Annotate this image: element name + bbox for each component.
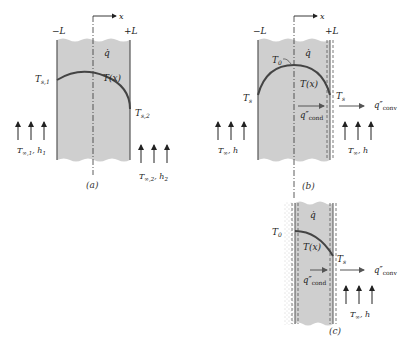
heat-generation-b: q̇ bbox=[305, 48, 311, 58]
slab-c bbox=[295, 202, 333, 326]
fluid-left-a: T∞,1, h1 bbox=[17, 146, 46, 156]
caption-a: (a) bbox=[86, 180, 99, 190]
flow-arrows-left-b bbox=[218, 122, 244, 140]
slab-a bbox=[57, 39, 130, 162]
fluid-right-c: T∞, h bbox=[350, 310, 370, 320]
fluid-left-b: T∞, h bbox=[218, 146, 238, 156]
heat-generation-a: q̇ bbox=[104, 48, 110, 58]
surface-temp-left-a: Ts,1 bbox=[35, 74, 50, 85]
panel-c: q̇ T0 T(x) Ts q″cond q″conv T∞, h (c) bbox=[272, 202, 397, 337]
slab-b bbox=[258, 39, 330, 162]
heat-generation-c: q̇ bbox=[310, 210, 316, 220]
surface-temp-left-b: Ts bbox=[243, 93, 252, 104]
caption-c: (c) bbox=[329, 326, 342, 336]
plane-wall-diagram: x −L +L q̇ T(x) Ts,1 Ts,2 T∞,1, h1 T∞,2,… bbox=[0, 0, 415, 349]
conv-flux-label-c: q″conv bbox=[374, 265, 397, 276]
insulation-c bbox=[284, 202, 295, 325]
flow-arrows-right-c bbox=[346, 286, 372, 304]
x-axis-label-b: x bbox=[320, 12, 325, 21]
fluid-right-a: T∞,2, h2 bbox=[139, 172, 168, 182]
right-bound-b: +L bbox=[325, 26, 339, 36]
fluid-right-b: T∞, h bbox=[348, 146, 368, 156]
left-bound-a: −L bbox=[52, 26, 66, 36]
surface-temp-right-c: Ts bbox=[337, 254, 346, 265]
center-temp-c: T0 bbox=[272, 227, 282, 238]
x-axis-label-a: x bbox=[119, 12, 124, 21]
caption-b: (b) bbox=[302, 181, 315, 191]
panel-a: x −L +L q̇ T(x) Ts,1 Ts,2 T∞,1, h1 T∞,2,… bbox=[17, 12, 168, 190]
panel-b: x −L +L q̇ T0 T(x) Ts Ts q″cond q″conv T… bbox=[218, 12, 397, 200]
flow-arrows-right-b bbox=[345, 122, 371, 140]
surface-temp-right-a: Ts,2 bbox=[135, 108, 150, 119]
profile-label-c: T(x) bbox=[303, 242, 322, 252]
conv-flux-label-b: q″conv bbox=[374, 100, 397, 111]
right-bound-a: +L bbox=[124, 26, 138, 36]
left-bound-b: −L bbox=[253, 26, 267, 36]
profile-label-b: T(x) bbox=[300, 79, 319, 89]
profile-label-a: T(x) bbox=[103, 73, 122, 83]
flow-arrows-left-a bbox=[18, 122, 44, 140]
flow-arrows-right-a bbox=[141, 145, 167, 163]
surface-temp-right-b: Ts bbox=[336, 91, 345, 102]
